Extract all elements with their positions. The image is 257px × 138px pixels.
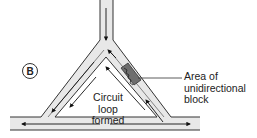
circuit-loop-annotation: Circuit loop formed [82, 92, 134, 127]
block-area-line3: block [184, 94, 256, 106]
block-area-annotation: Area of unidirectional block [184, 71, 256, 106]
block-area-line1: Area of [184, 71, 256, 83]
loop-line1: Circuit [82, 92, 134, 104]
panel-label-b: B [22, 63, 38, 79]
loop-line2: loop formed [82, 104, 134, 127]
